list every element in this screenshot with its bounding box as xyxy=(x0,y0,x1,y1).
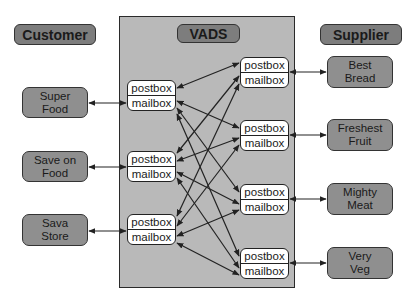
vads-customer-box-1: postbox mailbox xyxy=(127,80,176,111)
mailbox-label: mailbox xyxy=(241,136,288,150)
vads-customer-box-3: postbox mailbox xyxy=(127,214,176,245)
vads-customer-box-2: postbox mailbox xyxy=(127,151,176,182)
postbox-label: postbox xyxy=(128,81,175,96)
postbox-label: postbox xyxy=(241,185,288,200)
postbox-label: postbox xyxy=(128,215,175,230)
postbox-label: postbox xyxy=(128,152,175,167)
supplier-very-veg: Very Veg xyxy=(327,247,393,279)
mailbox-label: mailbox xyxy=(128,96,175,110)
supplier-mighty-meat: Mighty Meat xyxy=(327,183,393,215)
customer-save-on-food: Save on Food xyxy=(22,151,88,182)
vads-supplier-box-1: postbox mailbox xyxy=(240,57,289,88)
vads-supplier-box-2: postbox mailbox xyxy=(240,120,289,151)
customer-super-food: Super Food xyxy=(22,87,88,118)
vads-supplier-box-3: postbox mailbox xyxy=(240,184,289,215)
mailbox-label: mailbox xyxy=(241,200,288,214)
supplier-best-bread: Best Bread xyxy=(327,56,393,88)
mailbox-label: mailbox xyxy=(128,230,175,244)
customer-sava-store: Sava Store xyxy=(22,214,88,246)
vads-supplier-box-4: postbox mailbox xyxy=(240,248,289,279)
mailbox-label: mailbox xyxy=(128,167,175,181)
mailbox-label: mailbox xyxy=(241,73,288,87)
postbox-label: postbox xyxy=(241,58,288,73)
postbox-label: postbox xyxy=(241,121,288,136)
supplier-freshest-fruit: Freshest Fruit xyxy=(327,119,393,151)
mailbox-label: mailbox xyxy=(241,264,288,278)
postbox-label: postbox xyxy=(241,249,288,264)
